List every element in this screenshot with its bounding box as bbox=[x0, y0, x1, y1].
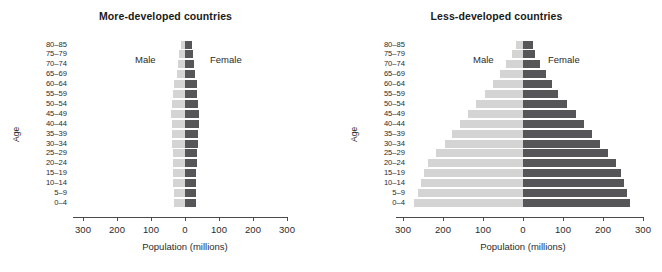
x-axis-tick-mark bbox=[563, 217, 564, 221]
bar-female-0-4 bbox=[185, 198, 196, 208]
bar-female-25-29 bbox=[523, 148, 608, 158]
bar-female-35-39 bbox=[185, 129, 198, 139]
bar-female-75-79 bbox=[523, 49, 535, 59]
y-axis-tick-label: 75–79 bbox=[363, 49, 405, 58]
bar-female-60-64 bbox=[523, 79, 552, 89]
x-axis-tick-mark bbox=[185, 217, 186, 221]
y-axis-tick-label: 65–69 bbox=[363, 69, 405, 78]
x-axis-tick-mark bbox=[287, 217, 288, 221]
x-axis-line bbox=[73, 217, 287, 218]
bar-male-65-69 bbox=[177, 69, 186, 79]
bar-female-25-29 bbox=[185, 148, 197, 158]
y-axis-tick-label: 60–64 bbox=[25, 79, 67, 88]
y-axis-tick-label: 35–39 bbox=[25, 129, 67, 138]
bar-female-0-4 bbox=[523, 198, 630, 208]
bar-female-65-69 bbox=[185, 69, 195, 79]
bar-male-20-24 bbox=[173, 158, 185, 168]
bar-female-50-54 bbox=[185, 99, 198, 109]
y-axis-tick-label: 55–59 bbox=[25, 89, 67, 98]
plot-area: 80–8575–7970–7465–6960–6455–5950–5445–49… bbox=[0, 0, 331, 272]
y-axis-tick-label: 40–44 bbox=[363, 119, 405, 128]
bar-male-65-69 bbox=[500, 69, 523, 79]
series-label-male: Male bbox=[135, 54, 156, 65]
y-axis-tick-label: 75–79 bbox=[25, 49, 67, 58]
bar-female-55-59 bbox=[185, 89, 197, 99]
bar-male-50-54 bbox=[172, 99, 185, 109]
bar-male-60-64 bbox=[174, 79, 185, 89]
chart-panel-less-developed: Less-developed countries 80–8575–7970–74… bbox=[331, 0, 662, 272]
y-axis-tick-label: 50–54 bbox=[363, 99, 405, 108]
bar-female-75-79 bbox=[185, 49, 193, 59]
y-axis-tick-label: 30–34 bbox=[25, 139, 67, 148]
x-axis-title: Population (millions) bbox=[105, 241, 265, 252]
y-axis-tick-label: 55–59 bbox=[363, 89, 405, 98]
bar-female-55-59 bbox=[523, 89, 558, 99]
bar-male-25-29 bbox=[436, 148, 523, 158]
bar-male-35-39 bbox=[452, 129, 523, 139]
bar-male-40-44 bbox=[172, 119, 185, 129]
bar-female-10-14 bbox=[185, 178, 196, 188]
bar-male-10-14 bbox=[421, 178, 523, 188]
x-axis-tick-label: 0 bbox=[503, 224, 543, 235]
x-axis-tick-mark bbox=[523, 217, 524, 221]
y-axis-tick-label: 50–54 bbox=[25, 99, 67, 108]
bar-male-40-44 bbox=[460, 119, 523, 129]
y-axis-title: Age bbox=[349, 127, 359, 142]
bar-male-10-14 bbox=[173, 178, 185, 188]
bar-male-0-4 bbox=[414, 198, 523, 208]
bar-male-30-34 bbox=[172, 139, 185, 149]
bar-female-20-24 bbox=[185, 158, 197, 168]
x-axis-tick-mark bbox=[603, 217, 604, 221]
bar-female-30-34 bbox=[185, 139, 198, 149]
y-axis-tick-label: 80–85 bbox=[25, 40, 67, 49]
y-axis-tick-label: 25–29 bbox=[363, 148, 405, 157]
y-axis-tick-label: 35–39 bbox=[363, 129, 405, 138]
bar-female-35-39 bbox=[523, 129, 592, 139]
y-axis-title: Age bbox=[11, 127, 21, 142]
x-axis-tick-label: 200 bbox=[583, 224, 623, 235]
bar-female-45-49 bbox=[523, 109, 576, 119]
x-axis-tick-mark bbox=[83, 217, 84, 221]
bar-male-30-34 bbox=[445, 139, 523, 149]
bar-female-5-9 bbox=[185, 188, 196, 198]
bar-female-70-74 bbox=[185, 59, 194, 69]
x-axis-tick-mark bbox=[219, 217, 220, 221]
bar-female-40-44 bbox=[523, 119, 584, 129]
y-axis-tick-label: 65–69 bbox=[25, 69, 67, 78]
y-axis-tick-label: 20–24 bbox=[25, 158, 67, 167]
bar-male-45-49 bbox=[171, 109, 185, 119]
bar-male-55-59 bbox=[173, 89, 185, 99]
series-label-male: Male bbox=[473, 54, 494, 65]
bar-female-40-44 bbox=[185, 119, 199, 129]
x-axis-line bbox=[396, 217, 643, 218]
y-axis-tick-label: 0–4 bbox=[25, 198, 67, 207]
bar-male-75-79 bbox=[512, 49, 523, 59]
y-axis-tick-label: 70–74 bbox=[363, 59, 405, 68]
bar-male-25-29 bbox=[173, 148, 185, 158]
x-axis-tick-label: 300 bbox=[383, 224, 423, 235]
bar-female-15-19 bbox=[523, 168, 621, 178]
bar-female-80-85 bbox=[523, 40, 533, 50]
y-axis-tick-label: 10–14 bbox=[25, 178, 67, 187]
y-axis-tick-label: 0–4 bbox=[363, 198, 405, 207]
bar-female-70-74 bbox=[523, 59, 540, 69]
y-axis-tick-label: 45–49 bbox=[363, 109, 405, 118]
y-axis-tick-label: 10–14 bbox=[363, 178, 405, 187]
bar-male-80-85 bbox=[516, 40, 523, 50]
plot-area: 80–8575–7970–7465–6960–6455–5950–5445–49… bbox=[331, 0, 662, 272]
x-axis-tick-mark bbox=[253, 217, 254, 221]
bar-male-5-9 bbox=[418, 188, 523, 198]
bar-female-60-64 bbox=[185, 79, 197, 89]
y-axis-tick-label: 20–24 bbox=[363, 158, 405, 167]
bar-female-5-9 bbox=[523, 188, 627, 198]
x-axis-tick-label: 100 bbox=[463, 224, 503, 235]
bar-female-15-19 bbox=[185, 168, 196, 178]
x-axis-tick-mark bbox=[151, 217, 152, 221]
bar-male-15-19 bbox=[173, 168, 185, 178]
series-label-female: Female bbox=[548, 54, 580, 65]
x-axis-title: Population (millions) bbox=[443, 241, 603, 252]
bar-male-70-74 bbox=[178, 59, 185, 69]
bar-female-45-49 bbox=[185, 109, 199, 119]
bar-male-45-49 bbox=[468, 109, 523, 119]
bar-male-15-19 bbox=[424, 168, 523, 178]
